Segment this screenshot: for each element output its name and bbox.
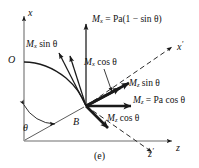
axis-label-x-text: x (28, 7, 32, 18)
prime-mark-x: ′ (181, 40, 183, 49)
mz-cos-expression: cos θ (117, 113, 139, 123)
mx-total-symbol: M (92, 14, 100, 24)
mz-total-symbol: M (133, 95, 141, 105)
point-label-o-text: O (8, 54, 15, 65)
vector-label-mx-cos-theta: Mx cos θ (84, 58, 117, 68)
vector-label-mz-sin-theta: Mz sin θ (129, 79, 160, 89)
mx-total-expression: = Pa(1 − sin θ) (103, 14, 162, 24)
vector-mx-cos-theta (86, 88, 120, 106)
leader-line-mx-cos (104, 69, 112, 92)
mx-cos-expression: cos θ (95, 57, 117, 67)
mx-sin-symbol: M (26, 39, 34, 49)
mz-total-expression: = Pa cos θ (143, 95, 185, 105)
mz-sin-symbol: M (129, 78, 137, 88)
figure-drawing (0, 0, 199, 168)
figure-container: x z x′ z′ O B θ Mx = Pa(1 − sin θ) Mx si… (0, 0, 199, 168)
axis-label-x-prime: x′ (177, 41, 183, 52)
axis-label-x: x (28, 8, 32, 18)
vector-label-mz-resultant: Mz = Pa cos θ (133, 96, 185, 106)
vector-label-mx-sin-theta: Mx sin θ (26, 40, 57, 50)
mx-sin-expression: sin θ (37, 39, 57, 49)
mz-cos-symbol: M (107, 113, 115, 123)
mz-sin-expression: sin θ (139, 78, 159, 88)
vector-label-mz-cos-theta: Mz cos θ (107, 114, 139, 124)
figure-caption: (e) (0, 150, 199, 161)
angle-label-theta-text: θ (23, 122, 28, 133)
mx-cos-symbol: M (84, 57, 92, 67)
theta-angle-arc (24, 105, 55, 124)
point-label-b: B (73, 117, 79, 127)
vector-label-mx-resultant: Mx = Pa(1 − sin θ) (92, 15, 162, 25)
point-label-b-text: B (73, 116, 79, 127)
vector-mx-sin-theta (59, 53, 86, 106)
curved-member-arc (24, 62, 86, 106)
angle-label-theta: θ (23, 123, 28, 133)
vector-mz-cos-theta (86, 106, 108, 128)
point-label-o: O (8, 55, 15, 65)
